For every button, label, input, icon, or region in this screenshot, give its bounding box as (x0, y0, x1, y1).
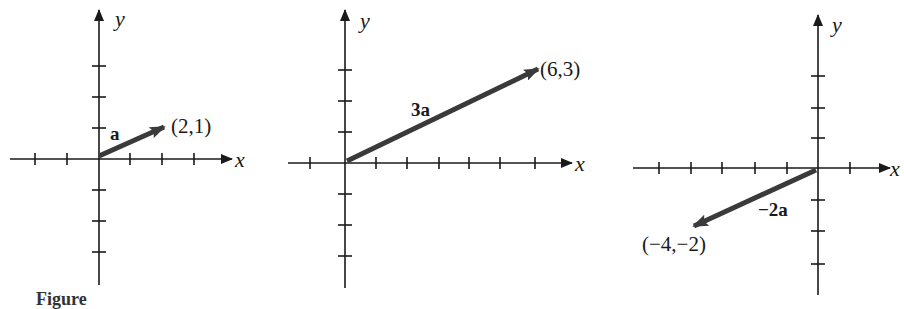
vector-a (99, 127, 164, 156)
panel-1-a (10, 10, 232, 285)
x-axis-label: x (890, 158, 900, 180)
vector-label: −2a (758, 200, 788, 219)
vector-3a (347, 69, 538, 161)
y-axis-label: y (360, 10, 370, 32)
vector-label: 3a (411, 100, 430, 119)
endpoint-label: (6,3) (540, 59, 580, 80)
endpoint-label: (2,1) (171, 116, 211, 137)
panel-2-3a (288, 10, 572, 288)
x-axis-label: x (575, 153, 585, 175)
vector-label: a (110, 124, 120, 143)
endpoint-label: (−4,−2) (642, 234, 706, 255)
y-axis-label: y (115, 8, 125, 30)
x-axis-label: x (235, 149, 245, 171)
vector-neg2a (694, 170, 816, 226)
figure-caption: Figure (36, 290, 87, 308)
y-axis-label: y (832, 14, 842, 36)
